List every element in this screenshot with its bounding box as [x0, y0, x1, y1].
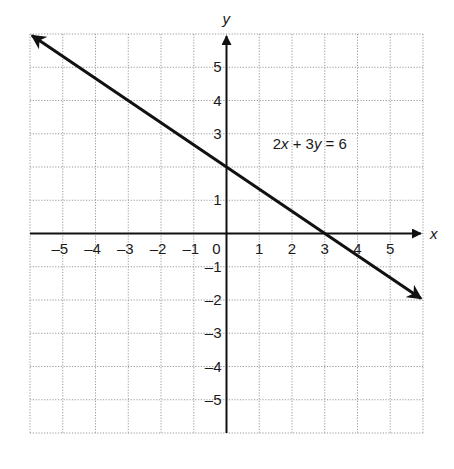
x-tick-label: 3: [321, 240, 329, 257]
y-tick-label: –3: [205, 324, 222, 341]
equation-part: + 3: [288, 135, 313, 152]
y-tick-label: –2: [205, 291, 222, 308]
y-tick-label: –5: [205, 391, 222, 408]
equation-label: 2x + 3y = 6: [273, 135, 347, 152]
y-tick-label: –4: [205, 358, 222, 375]
x-tick-label: 5: [386, 240, 394, 257]
axes: [30, 36, 421, 433]
coordinate-plane: –5–4–3–2–10123455431–1–2–3–4–5 x y 2x + …: [0, 0, 454, 469]
y-tick-label: –1: [205, 258, 222, 275]
x-axis-label: x: [429, 225, 438, 242]
equation-part: = 6: [321, 135, 346, 152]
y-tick-label: 3: [213, 125, 221, 142]
x-tick-label: 1: [255, 240, 263, 257]
x-tick-label: 2: [288, 240, 296, 257]
x-tick-label: –3: [117, 240, 134, 257]
x-tick-label: –5: [51, 240, 68, 257]
x-tick-label: –2: [150, 240, 167, 257]
x-tick-label: 0: [212, 240, 220, 257]
x-tick-label: –1: [182, 240, 199, 257]
y-tick-label: 5: [213, 58, 221, 75]
y-tick-label: 4: [213, 92, 221, 109]
y-axis-label: y: [222, 10, 232, 27]
x-tick-label: –4: [84, 240, 101, 257]
equation-part: 2: [273, 135, 281, 152]
y-tick-label: 1: [213, 191, 221, 208]
